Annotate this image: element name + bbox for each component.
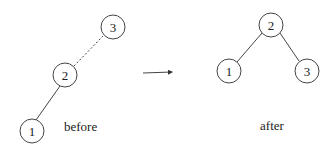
svg-text:1: 1 [29, 124, 36, 139]
transform-arrow [143, 72, 172, 73]
svg-text:2: 2 [268, 18, 275, 33]
node-3-after: 3 [295, 59, 319, 83]
svg-text:3: 3 [110, 20, 117, 35]
after-tree: 2 1 3 after [217, 13, 319, 133]
edge-2-3 [280, 33, 299, 61]
node-1: 1 [20, 119, 44, 143]
node-1-after: 1 [217, 59, 241, 83]
svg-text:2: 2 [62, 68, 69, 83]
edge-2-3-dashed [74, 36, 103, 66]
svg-text:1: 1 [226, 64, 233, 79]
before-label: before [64, 119, 97, 134]
edge-2-1 [237, 33, 262, 62]
rotation-diagram: 3 2 1 before 2 1 3 after [0, 0, 336, 147]
node-3: 3 [101, 15, 125, 39]
node-2-after: 2 [259, 13, 283, 37]
after-label: after [260, 118, 284, 133]
node-2: 2 [53, 63, 77, 87]
edge-1-2 [36, 86, 60, 120]
svg-text:3: 3 [304, 64, 311, 79]
before-tree: 3 2 1 before [20, 15, 125, 143]
